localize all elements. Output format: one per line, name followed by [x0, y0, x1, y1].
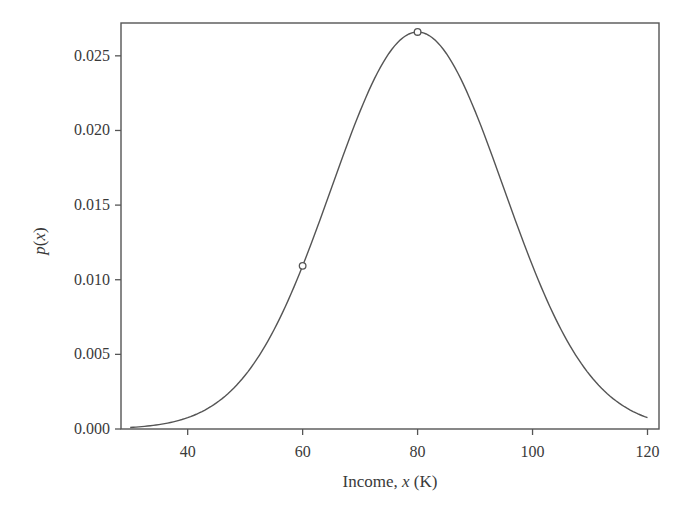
plot-frame	[121, 23, 659, 429]
y-tick-label: 0.020	[74, 121, 110, 138]
density-curve-path	[130, 32, 647, 427]
marked-point-circle	[299, 263, 306, 270]
marked-points	[299, 29, 421, 269]
y-axis-title: p(x)	[30, 227, 49, 255]
x-tick-label: 60	[295, 443, 311, 460]
x-axis: 406080100120	[180, 429, 660, 460]
y-tick-label: 0.025	[74, 47, 110, 64]
y-tick-label: 0.000	[74, 420, 110, 437]
y-axis: 0.0000.0050.0100.0150.0200.025	[74, 47, 121, 437]
y-tick-label: 0.015	[74, 196, 110, 213]
y-tick-label: 0.005	[74, 345, 110, 362]
density-curve	[130, 32, 647, 427]
x-tick-label: 100	[521, 443, 545, 460]
plot-border	[121, 23, 659, 429]
x-tick-label: 40	[180, 443, 196, 460]
x-tick-label: 80	[410, 443, 426, 460]
x-axis-title: Income, x (K)	[343, 472, 438, 491]
y-tick-label: 0.010	[74, 271, 110, 288]
x-tick-label: 120	[636, 443, 660, 460]
density-chart: 0.0000.0050.0100.0150.0200.025 406080100…	[0, 0, 686, 514]
marked-point-circle	[414, 29, 421, 36]
